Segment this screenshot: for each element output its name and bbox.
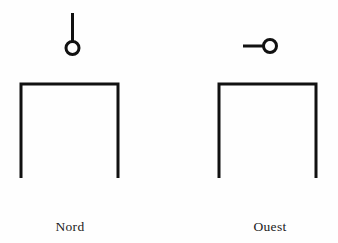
view-direction-marker-up-icon [66, 13, 79, 55]
marker-circle [66, 42, 79, 55]
profile-bracket-inverted-u [219, 84, 316, 178]
figure-caption-nord: Nord [0, 220, 140, 234]
diagram-drawing [0, 0, 338, 243]
view-direction-marker-left-icon [243, 40, 277, 53]
figure-nord [21, 13, 118, 178]
diagram-canvas: Nord Ouest [0, 0, 338, 243]
marker-circle [264, 40, 277, 53]
figure-ouest [219, 40, 316, 179]
profile-bracket-inverted-u [21, 84, 118, 178]
figure-caption-ouest: Ouest [200, 220, 338, 234]
